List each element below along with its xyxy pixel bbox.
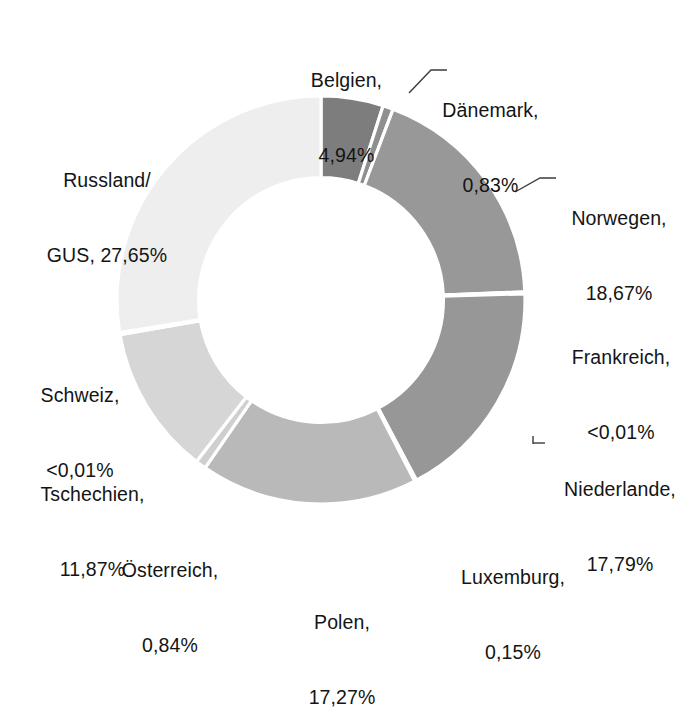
slice-label-polen-value: 17,27% xyxy=(280,685,404,710)
slice-label-polen: Polen, 17,27% xyxy=(280,560,404,711)
slice-label-luxemburg-value: 0,15% xyxy=(443,640,583,665)
slice-label-russland: Russland/ GUS, 27,65% xyxy=(22,118,192,318)
slice-label-frankreich-name: Frankreich, xyxy=(550,345,692,370)
slice-label-belgien-value: 4,94% xyxy=(279,143,414,168)
slice-label-daenemark: Dänemark, 0,83% xyxy=(418,48,563,248)
slice-label-norwegen-name: Norwegen, xyxy=(546,206,692,231)
slice-label-daenemark-name: Dänemark, xyxy=(418,98,563,123)
slice-label-schweiz: Schweiz, <0,01% xyxy=(16,333,144,533)
slice-label-belgien-name: Belgien, xyxy=(279,68,414,93)
slice-label-daenemark-value: 0,83% xyxy=(418,173,563,198)
slice-label-luxemburg-name: Luxemburg, xyxy=(443,565,583,590)
slice-label-luxemburg: Luxemburg, 0,15% xyxy=(443,515,583,711)
slice-label-russland-value: GUS, 27,65% xyxy=(22,243,192,268)
slice-label-russland-name: Russland/ xyxy=(22,168,192,193)
slice-label-niederlande-name: Niederlande, xyxy=(546,477,694,502)
slice-label-tschechien-value: 11,87% xyxy=(20,557,165,582)
slice-label-belgien: Belgien, 4,94% xyxy=(279,18,414,218)
slice-label-polen-name: Polen, xyxy=(280,610,404,635)
slice-label-schweiz-name: Schweiz, xyxy=(16,383,144,408)
slice-label-schweiz-value: <0,01% xyxy=(16,458,144,483)
slice-label-oesterreich-value: 0,84% xyxy=(97,633,243,658)
